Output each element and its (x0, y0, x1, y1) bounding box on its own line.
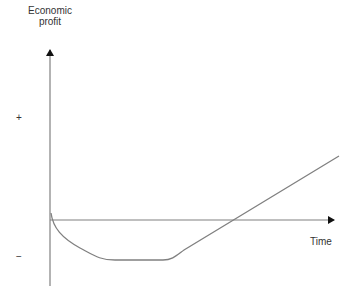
diagram-canvas (0, 0, 355, 296)
profit-curve (51, 156, 339, 260)
